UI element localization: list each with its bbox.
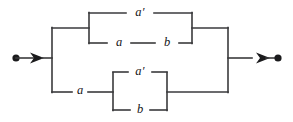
label-a-upper: a xyxy=(116,35,122,49)
label-a-prime-lower: a′ xyxy=(135,64,144,78)
label-b-lower: b xyxy=(137,102,143,116)
label-b-upper: b xyxy=(164,35,170,49)
label-a-lower-series: a xyxy=(77,83,83,97)
label-a-prime-upper: a′ xyxy=(135,5,144,19)
series-parallel-diagram: a′ a b a a′ b xyxy=(0,0,293,122)
sink-terminal-node xyxy=(274,54,281,61)
diagram-canvas: a′ a b a a′ b xyxy=(0,0,293,122)
